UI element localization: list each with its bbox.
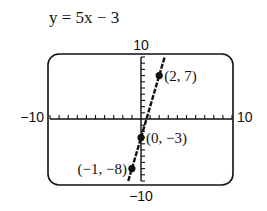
y-max-tick-label: 10 <box>133 37 149 53</box>
labeled-points: (2, 7)(0, −3)(−1, −8) <box>77 68 196 178</box>
data-point <box>128 165 135 172</box>
data-point-label: (−1, −8) <box>77 161 126 178</box>
data-point-label: (2, 7) <box>164 68 197 85</box>
y-min-tick-label: −10 <box>129 188 153 204</box>
x-min-tick-label: −10 <box>20 109 44 125</box>
data-point-label: (0, −3) <box>146 130 187 147</box>
graphing-calculator-chart: y = 5x − 3 (2, 7)(0, −3)(−1, −8) 10 −10 … <box>0 0 267 211</box>
data-point <box>137 134 144 141</box>
data-point <box>156 72 163 79</box>
x-max-tick-label: 10 <box>237 109 253 125</box>
chart-title: y = 5x − 3 <box>49 8 119 27</box>
